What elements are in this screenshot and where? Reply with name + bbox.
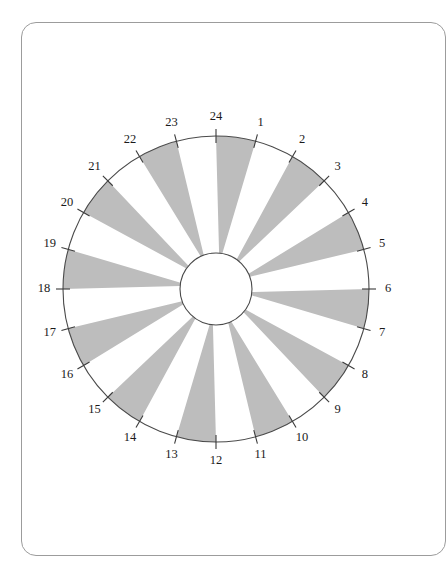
sector-label-23: 23 <box>165 115 178 129</box>
sector-label-1: 1 <box>257 115 263 129</box>
sector-label-6: 6 <box>385 281 391 295</box>
sector-label-22: 22 <box>124 132 137 146</box>
sector-label-13: 13 <box>165 447 178 461</box>
sector-label-14: 14 <box>124 430 137 444</box>
sector-label-9: 9 <box>334 402 340 416</box>
sector-label-3: 3 <box>334 159 340 173</box>
sector-label-20: 20 <box>61 195 74 209</box>
inner-hub-circle <box>180 253 252 325</box>
sector-label-7: 7 <box>379 325 385 339</box>
sector-label-17: 17 <box>44 325 57 339</box>
sector-label-24: 24 <box>210 109 223 123</box>
sector-label-18: 18 <box>38 281 51 295</box>
sector-label-2: 2 <box>299 132 305 146</box>
sector-label-16: 16 <box>61 367 74 381</box>
sector-label-8: 8 <box>362 367 368 381</box>
sector-label-15: 15 <box>88 402 101 416</box>
sector-label-10: 10 <box>296 430 309 444</box>
sector-label-11: 11 <box>254 447 266 461</box>
sector-label-12: 12 <box>210 453 223 467</box>
sector-label-19: 19 <box>44 236 57 250</box>
sector-label-21: 21 <box>88 159 101 173</box>
sector-label-4: 4 <box>362 195 369 209</box>
sector-label-5: 5 <box>379 236 385 250</box>
